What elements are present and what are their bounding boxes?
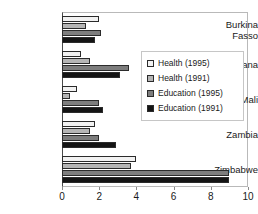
x-axis: 0246810 <box>62 187 248 209</box>
bar <box>62 65 129 71</box>
category-label: Burkina Fasso <box>200 19 258 41</box>
x-axis-tick <box>62 187 63 190</box>
legend-swatch-icon <box>147 75 154 82</box>
chart-legend: Health (1995) Health (1991) Education (1… <box>141 51 244 121</box>
bar-row <box>62 37 95 43</box>
bar-row <box>62 72 120 78</box>
legend-item: Education (1995) <box>147 87 239 100</box>
bar-row <box>62 65 129 71</box>
x-axis-tick <box>136 187 137 190</box>
bar <box>62 16 99 22</box>
x-axis-tick-label: 2 <box>96 191 102 202</box>
bar <box>62 23 86 29</box>
x-axis-tick-label: 10 <box>242 191 253 202</box>
legend-item-label: Education (1991) <box>158 104 223 113</box>
x-axis-tick-label: 6 <box>171 191 177 202</box>
bar-row <box>62 135 99 141</box>
bar <box>62 142 116 148</box>
bar-row <box>62 107 103 113</box>
x-axis-tick <box>211 187 212 190</box>
legend-swatch-icon <box>147 60 154 67</box>
bar <box>62 107 103 113</box>
bar <box>62 100 99 106</box>
legend-item-label: Health (1991) <box>158 74 210 83</box>
x-axis-tick <box>99 187 100 190</box>
bar <box>62 177 229 183</box>
bar <box>62 86 77 92</box>
x-axis-tick-label: 0 <box>59 191 65 202</box>
bar-row <box>62 51 81 57</box>
bar <box>62 156 136 162</box>
bar <box>62 37 95 43</box>
x-axis-tick <box>174 187 175 190</box>
bar-row <box>62 16 99 22</box>
x-axis-tick-label: 4 <box>134 191 140 202</box>
bar-row <box>62 23 86 29</box>
bar <box>62 135 99 141</box>
x-axis-tick-label: 8 <box>208 191 214 202</box>
legend-item-label: Education (1995) <box>158 89 223 98</box>
bar <box>62 30 101 36</box>
legend-item: Health (1991) <box>147 72 239 85</box>
bar <box>62 51 81 57</box>
x-axis-tick <box>248 187 249 190</box>
bar <box>62 163 131 169</box>
bar-row <box>62 142 116 148</box>
bar-chart: Burkina FassoGhanaMaliZambiaZimbabwe 024… <box>0 0 258 214</box>
bar-row <box>62 121 95 127</box>
bar-row <box>62 93 70 99</box>
bar <box>62 121 95 127</box>
legend-item-label: Health (1995) <box>158 59 210 68</box>
bar-row <box>62 163 131 169</box>
bar-row <box>62 156 136 162</box>
bar-row <box>62 30 101 36</box>
bar-row <box>62 86 77 92</box>
bar <box>62 58 90 64</box>
bar-row <box>62 177 229 183</box>
legend-item: Health (1995) <box>147 57 239 70</box>
bar-row <box>62 170 229 176</box>
legend-item: Education (1991) <box>147 102 239 115</box>
legend-swatch-icon <box>147 105 154 112</box>
bar <box>62 170 229 176</box>
bar <box>62 72 120 78</box>
legend-swatch-icon <box>147 90 154 97</box>
bar-row <box>62 100 99 106</box>
bar-row <box>62 58 90 64</box>
bar <box>62 93 70 99</box>
bar <box>62 128 90 134</box>
category-label: Zambia <box>200 129 258 140</box>
bar-row <box>62 128 90 134</box>
